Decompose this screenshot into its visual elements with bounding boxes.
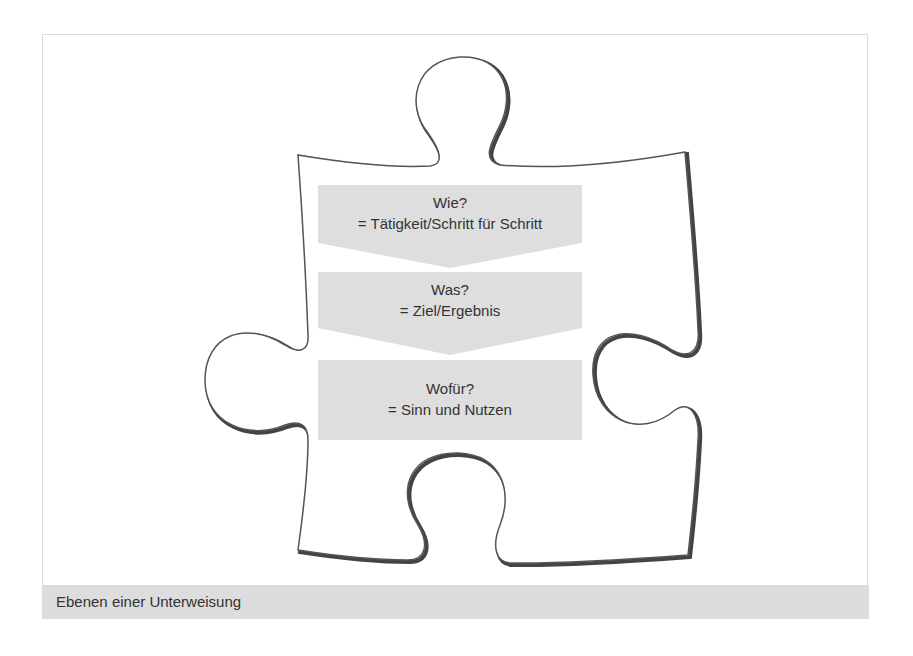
figure-caption: Ebenen einer Unterweisung bbox=[42, 585, 869, 619]
step-answer: = Sinn und Nutzen bbox=[318, 399, 582, 420]
step-question: Wofür? bbox=[318, 378, 582, 399]
step-how: Wie? = Tätigkeit/Schritt für Schritt bbox=[318, 192, 582, 234]
step-why: Wofür? = Sinn und Nutzen bbox=[318, 378, 582, 420]
step-what: Was? = Ziel/Ergebnis bbox=[318, 279, 582, 321]
puzzle-piece-diagram bbox=[0, 0, 913, 656]
step-answer: = Tätigkeit/Schritt für Schritt bbox=[318, 213, 582, 234]
step-question: Was? bbox=[318, 279, 582, 300]
step-answer: = Ziel/Ergebnis bbox=[318, 300, 582, 321]
step-question: Wie? bbox=[318, 192, 582, 213]
